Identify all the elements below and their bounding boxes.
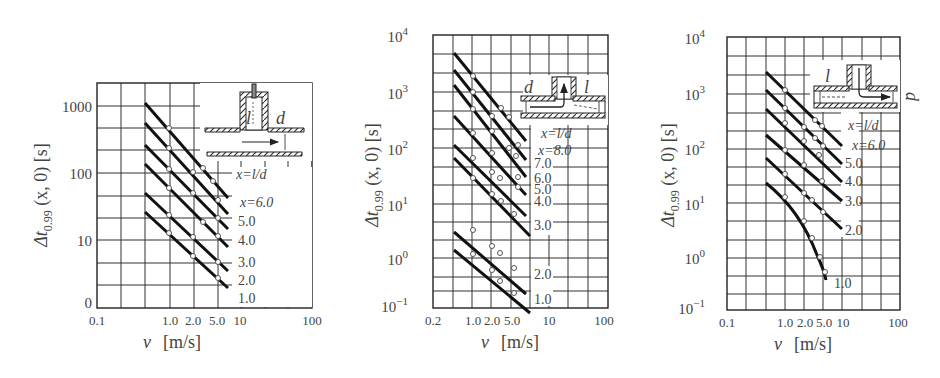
y-tick: 10−1 <box>381 295 408 315</box>
inset-label-d: d <box>524 77 534 97</box>
legend-label: 1.0 <box>834 276 852 291</box>
y-tick: 103 <box>388 82 409 102</box>
y-tick: 104 <box>388 25 409 45</box>
y-tick: 100 <box>70 166 93 182</box>
chart-middle: d l x=l/d x=8.0 7.0 6.0 5.0 4.0 3.0 2.0 … <box>362 25 614 352</box>
x-tick: 5.0 <box>816 315 832 330</box>
y-axis-label: Δt0.99 (x, 0) [s] <box>658 123 682 228</box>
legend-label: 2.0 <box>534 267 552 282</box>
legend-label: 5.0 <box>238 214 256 229</box>
x-axis-label: v[m/s] <box>481 332 539 352</box>
x-tick: 2.0 <box>797 315 813 330</box>
legend-label: 2.0 <box>238 273 256 288</box>
chart-right: l d x=l/d x=6.0 5.0 4.0 3.0 2.0 1.0 104 … <box>658 27 922 354</box>
y-tick: 101 <box>388 194 409 214</box>
y-tick: 104 <box>685 27 706 47</box>
y-tick: 0 <box>85 295 93 311</box>
y-ticks-right: 104 103 102 101 100 10−1 <box>678 27 705 317</box>
inset-label-d: d <box>902 92 922 102</box>
x-tick: 1.0 <box>465 313 481 328</box>
legend-label: 4.0 <box>238 233 256 248</box>
figure: l d x=l/d x=6.0 5.0 4.0 3.0 2.0 1.0 1000… <box>0 0 940 378</box>
x-tick: 100 <box>888 315 908 330</box>
y-tick: 1000 <box>62 99 92 115</box>
legend-label: 2.0 <box>845 223 863 238</box>
legend-label: 5.0 <box>845 156 863 171</box>
x-tick: 5.0 <box>504 313 520 328</box>
chart-left: l d x=l/d x=6.0 5.0 4.0 3.0 2.0 1.0 1000… <box>31 83 322 352</box>
y-tick: 10 <box>77 233 92 249</box>
y-tick: 100 <box>685 247 706 267</box>
x-tick: 100 <box>302 313 322 328</box>
x-tick: 10 <box>837 315 850 330</box>
legend-label: 4.0 <box>534 194 552 209</box>
legend-label: 4.0 <box>845 174 863 189</box>
legend-label: 1.0 <box>534 292 552 307</box>
inset-label-l: l <box>825 66 830 86</box>
y-tick: 100 <box>388 248 409 268</box>
x-tick: 10 <box>543 313 556 328</box>
inset-label-l: l <box>246 108 251 128</box>
y-axis-label: Δt0.99 (x, 0) [s] <box>362 123 386 228</box>
inset-label-l: l <box>584 77 589 97</box>
y-tick: 10−1 <box>678 297 705 317</box>
x-axis-label: v[m/s] <box>143 332 201 352</box>
y-axis-label: Δt0.99 (x, 0) [s] <box>31 143 55 248</box>
legend-header: x=l/d <box>540 126 572 141</box>
x-tick: 0.1 <box>89 313 105 328</box>
x-tick: 1.0 <box>777 315 793 330</box>
legend-header: x=l/d <box>235 167 267 182</box>
x-tick: 100 <box>594 313 614 328</box>
legend-label: x=6.0 <box>239 195 273 210</box>
y-tick: 103 <box>685 83 706 103</box>
x-tick: 2.0 <box>185 313 201 328</box>
y-tick: 102 <box>388 138 409 158</box>
legend-label: 1.0 <box>238 291 256 306</box>
y-tick: 101 <box>685 193 706 213</box>
legend-label: 3.0 <box>238 255 256 270</box>
x-tick: 10 <box>234 313 247 328</box>
x-tick: 0.1 <box>719 315 735 330</box>
y-tick: 102 <box>685 138 706 158</box>
legend-label: x=6.0 <box>851 138 885 153</box>
y-ticks-middle: 104 103 102 101 100 10−1 <box>381 25 408 315</box>
x-axis-label: v[m/s] <box>774 334 832 354</box>
x-tick: 0.2 <box>425 313 441 328</box>
x-tick: 5.0 <box>209 313 225 328</box>
legend-label: 3.0 <box>845 194 863 209</box>
legend-label: 3.0 <box>534 218 552 233</box>
legend-header: x=l/d <box>847 118 879 133</box>
legend-label: 7.0 <box>534 156 552 171</box>
inset-label-d: d <box>276 108 286 128</box>
x-tick: 2.0 <box>484 313 500 328</box>
x-tick: 1.0 <box>162 313 178 328</box>
